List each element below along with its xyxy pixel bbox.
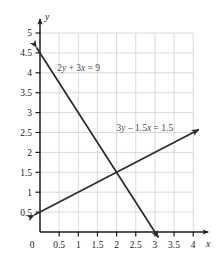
y-tick-label: 2.5	[20, 128, 32, 138]
y-axis-label: y	[44, 12, 50, 22]
equation-label-2: 3y – 1.5x = 1.5	[117, 123, 174, 133]
y-tick-label: 1.5	[20, 168, 32, 178]
equation-label-1: 2y + 3x = 9	[57, 63, 100, 73]
x-tick-label: 2.5	[130, 240, 142, 250]
y-tick-label: 4	[27, 68, 32, 78]
y-tick-label: 4.5	[20, 48, 32, 58]
y-tick-label: 2	[27, 148, 32, 158]
x-axis-label: x	[205, 239, 211, 249]
y-tick-label: 5	[27, 28, 32, 38]
x-tick-label: 3	[153, 240, 158, 250]
x-tick-label: 4	[191, 240, 196, 250]
text-labels: 0.511.522.533.540.511.522.533.544.550xy2…	[20, 12, 211, 250]
x-tick-label: 2	[114, 240, 119, 250]
y-tick-label: 3	[27, 108, 32, 118]
x-tick-label: 1	[76, 240, 81, 250]
graph-figure: 0.511.522.533.540.511.522.533.544.550xy2…	[0, 0, 220, 266]
origin-label: 0	[30, 240, 35, 250]
coordinate-plane: 0.511.522.533.540.511.522.533.544.550xy2…	[0, 0, 220, 266]
y-tick-label: 0.5	[20, 208, 32, 218]
y-tick-label: 1	[27, 188, 32, 198]
y-tick-label: 3.5	[20, 88, 32, 98]
x-tick-label: 0.5	[53, 240, 65, 250]
x-tick-label: 1.5	[92, 240, 104, 250]
x-tick-label: 3.5	[168, 240, 180, 250]
